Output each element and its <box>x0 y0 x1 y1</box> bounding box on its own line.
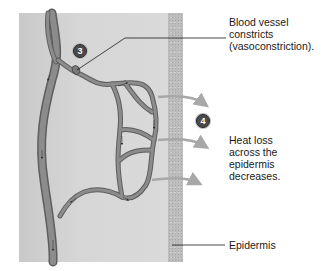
heat-loss-label: Heat loss across the epidermis decreases… <box>229 134 280 182</box>
step-4-badge: 4 <box>196 114 210 128</box>
step-3-badge: 3 <box>73 44 87 58</box>
vasoconstriction-label: Blood vessel constricts (vasoconstrictio… <box>229 16 314 52</box>
main-vessel <box>42 13 57 262</box>
heat-loss-arrows <box>152 96 203 182</box>
epidermis-label: Epidermis <box>229 239 276 251</box>
capillary-bed <box>58 60 156 216</box>
